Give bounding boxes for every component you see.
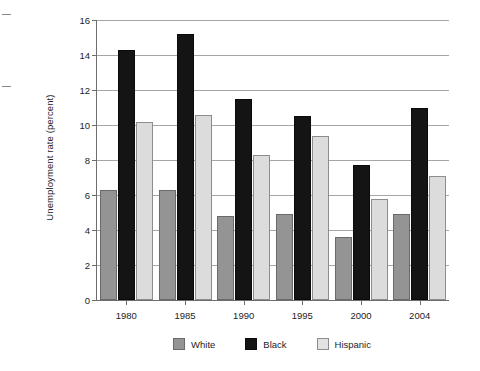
chart-legend: WhiteBlackHispanic (96, 338, 448, 350)
bar-group: 2000 (332, 20, 391, 300)
y-axis-tick-label: 6 (85, 190, 90, 201)
bar-black-2000 (353, 165, 370, 300)
bar-white-2000 (335, 237, 352, 300)
legend-swatch-black-icon (245, 338, 257, 350)
bar-white-2004 (393, 214, 410, 300)
bar-white-1985 (159, 190, 176, 300)
bar-black-1985 (177, 34, 194, 300)
bar-hispanic-1980 (136, 122, 153, 301)
x-axis-tick-label: 2000 (350, 310, 371, 321)
x-axis-tick-label: 2004 (409, 310, 430, 321)
legend-label: Hispanic (335, 339, 371, 350)
page-edge-mark-top (2, 14, 11, 15)
bar-group: 1995 (273, 20, 332, 300)
bar-group: 1980 (97, 20, 156, 300)
legend-item-hispanic: Hispanic (317, 338, 371, 350)
x-axis-tick-label: 1995 (292, 310, 313, 321)
y-axis-tick-label: 4 (85, 225, 90, 236)
x-axis-tick-mark (126, 300, 127, 305)
y-axis-tick-label: 12 (79, 85, 90, 96)
y-axis-tick-label: 2 (85, 260, 90, 271)
bar-hispanic-1985 (195, 115, 212, 301)
x-axis-tick-mark (420, 300, 421, 305)
bar-black-1990 (235, 99, 252, 300)
bar-white-1980 (100, 190, 117, 300)
bar-black-1995 (294, 116, 311, 300)
legend-item-white: White (173, 338, 215, 350)
legend-swatch-hispanic-icon (317, 338, 329, 350)
x-axis-tick-label: 1990 (233, 310, 254, 321)
x-axis-tick-mark (185, 300, 186, 305)
y-axis-tick-label: 14 (79, 50, 90, 61)
y-axis-tick-label: 0 (85, 295, 90, 306)
unemployment-bar-chart: Unemployment rate (percent) 024681012141… (0, 0, 480, 371)
bar-hispanic-2004 (429, 176, 446, 300)
bar-group: 1985 (156, 20, 215, 300)
legend-label: Black (263, 339, 286, 350)
bar-hispanic-2000 (371, 199, 388, 301)
page-edge-mark-middle (2, 86, 11, 87)
y-axis-tick-label: 8 (85, 155, 90, 166)
x-axis-tick-label: 1980 (116, 310, 137, 321)
y-axis-tick-label: 16 (79, 15, 90, 26)
bar-white-1990 (217, 216, 234, 300)
y-axis-tick-label: 10 (79, 120, 90, 131)
bar-white-1995 (276, 214, 293, 300)
y-axis-title: Unemployment rate (percent) (44, 43, 55, 273)
legend-item-black: Black (245, 338, 286, 350)
plot-area: 0246810121416 198019851990199520002004 (96, 20, 449, 301)
legend-label: White (191, 339, 215, 350)
legend-swatch-white-icon (173, 338, 185, 350)
bar-group: 1990 (214, 20, 273, 300)
x-axis-tick-mark (244, 300, 245, 305)
x-axis-tick-mark (302, 300, 303, 305)
bar-group: 2004 (390, 20, 449, 300)
bar-hispanic-1995 (312, 136, 329, 301)
bar-black-1980 (118, 50, 135, 300)
bar-black-2004 (411, 108, 428, 301)
bar-hispanic-1990 (253, 155, 270, 300)
bar-groups: 198019851990199520002004 (97, 20, 449, 300)
x-axis-tick-mark (361, 300, 362, 305)
x-axis-tick-label: 1985 (174, 310, 195, 321)
y-axis-tick-mark (92, 300, 97, 301)
